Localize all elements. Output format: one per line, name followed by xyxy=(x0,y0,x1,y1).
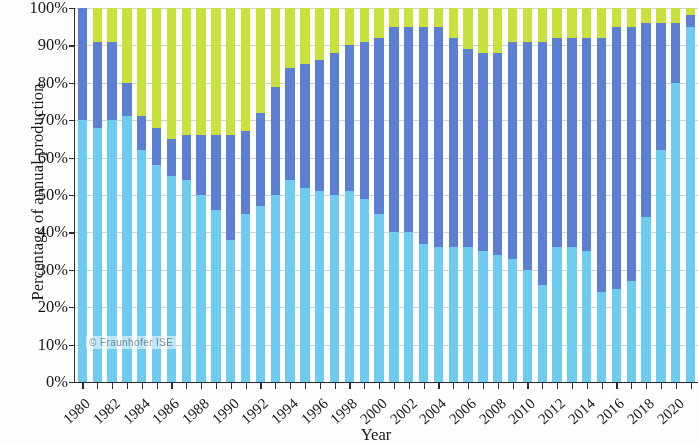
y-axis-tick-mark xyxy=(69,83,75,84)
y-axis-tick-mark xyxy=(69,232,75,233)
y-axis-tick-mark xyxy=(69,8,75,9)
y-axis-tick-mark xyxy=(69,382,75,383)
x-axis-title: Year xyxy=(0,425,698,445)
fraunhofer-watermark: © Fraunhofer ISE xyxy=(86,336,176,349)
y-axis-tick-mark xyxy=(69,270,75,271)
y-axis-tick-mark xyxy=(69,345,75,346)
y-axis-tick-mark xyxy=(69,307,75,308)
y-axis-tick-mark xyxy=(69,120,75,121)
y-axis-tick-mark xyxy=(69,158,75,159)
x-axis-tick-labels: 1980198219841986198819901992199419961998… xyxy=(0,0,698,446)
y-axis-tick-mark xyxy=(69,45,75,46)
x-axis-title-text: Year xyxy=(361,425,391,444)
y-axis-tick-mark xyxy=(69,195,75,196)
stacked-bar-chart: Percentage of annual production 0%10%20%… xyxy=(0,0,698,446)
